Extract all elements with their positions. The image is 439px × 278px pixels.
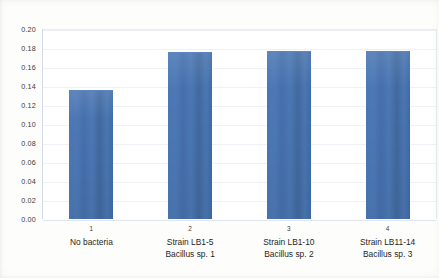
y-axis-tick-label: 0.12	[0, 101, 36, 110]
y-axis-tick-label: 0.16	[0, 63, 36, 72]
y-axis-tick-label: 0.06	[0, 158, 36, 167]
bar	[366, 51, 410, 219]
y-axis-tick-label: 0.08	[0, 139, 36, 148]
y-axis-tick-label: 0.00	[0, 215, 36, 224]
bar	[168, 52, 212, 219]
bar	[69, 90, 113, 219]
x-axis-category-line: No bacteria	[70, 237, 113, 249]
y-axis-tick-label: 0.04	[0, 177, 36, 186]
y-axis-tick-label: 0.10	[0, 120, 36, 129]
x-axis-category-label: No bacteria	[70, 237, 113, 249]
x-axis-category-line: Strain LB1-5	[165, 237, 214, 249]
x-axis-tick-number: 1	[90, 225, 94, 232]
x-axis-tick-number: 4	[386, 225, 390, 232]
x-axis-category-line: Strain LB11-14	[360, 237, 415, 249]
x-axis-category-label: Strain LB11-14Bacillus sp. 3	[360, 237, 415, 260]
bar-chart: 0.200.180.160.140.120.100.080.060.040.02…	[0, 0, 439, 278]
x-axis-category-label: Strain LB1-5Bacillus sp. 1	[165, 237, 214, 260]
x-axis-tick-number: 2	[188, 225, 192, 232]
x-axis-category-line: Bacillus sp. 1	[165, 249, 214, 261]
y-axis-tick-label: 0.18	[0, 44, 36, 53]
x-axis-tick-number: 3	[287, 225, 291, 232]
y-axis-tick-label: 0.02	[0, 196, 36, 205]
y-axis-tick-label: 0.20	[0, 25, 36, 34]
x-axis-category-line: Strain LB1-10	[263, 237, 314, 249]
x-axis-category-line: Bacillus sp. 3	[360, 249, 415, 261]
bar	[267, 51, 311, 219]
x-axis-category-line: Bacillus sp. 2	[263, 249, 314, 261]
y-axis-tick-label: 0.14	[0, 82, 36, 91]
x-axis-category-label: Strain LB1-10Bacillus sp. 2	[263, 237, 314, 260]
gridline	[43, 220, 436, 221]
bars-layer	[42, 29, 437, 219]
